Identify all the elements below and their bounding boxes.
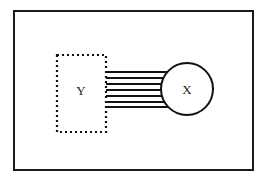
node-y: Y: [57, 55, 106, 132]
node-x: X: [161, 63, 213, 115]
diagram-canvas: Y X: [0, 0, 264, 180]
node-x-label: X: [182, 82, 192, 97]
node-y-label: Y: [76, 83, 86, 98]
